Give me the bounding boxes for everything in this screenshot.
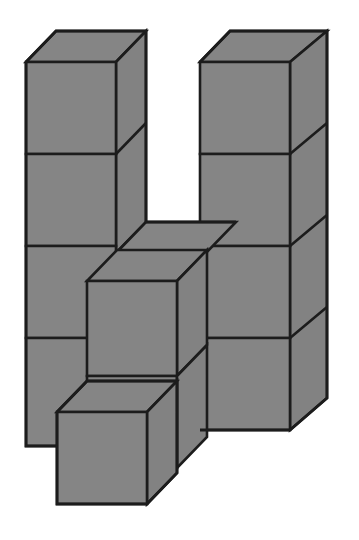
cube-stack-illustration [0, 0, 359, 540]
right-column-front-face-4 [200, 62, 290, 154]
right-column-front-face-1 [200, 338, 290, 430]
middle-front-cube-group [87, 250, 207, 376]
bottom-cube-front-face [57, 412, 147, 504]
isometric-figure-container [0, 0, 359, 540]
middle-cube-front-face [87, 281, 177, 376]
bottom-front-cube-group [57, 381, 177, 504]
left-column-side-face [116, 31, 146, 253]
right-column-front-face-2 [200, 246, 290, 338]
left-column-front-face-3 [26, 154, 116, 246]
left-column-front-face-4 [26, 62, 116, 154]
